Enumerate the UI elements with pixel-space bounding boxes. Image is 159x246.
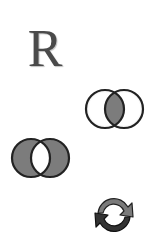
venn-intersection-icon[interactable] <box>84 86 146 132</box>
venn-symmetric-difference-icon[interactable] <box>10 135 72 181</box>
r-letter-icon[interactable]: R <box>23 24 67 74</box>
refresh-icon[interactable] <box>90 191 138 239</box>
